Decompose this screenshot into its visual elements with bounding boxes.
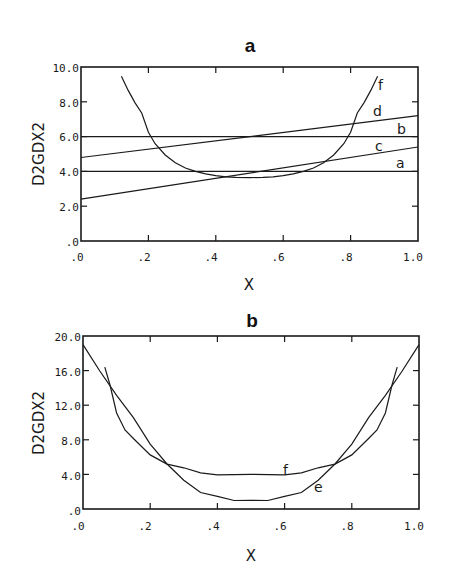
svg-text:.2: .2	[138, 520, 151, 533]
label-d: d	[373, 103, 382, 119]
panel-a-title: a	[245, 35, 256, 56]
svg-text:8.0: 8.0	[61, 435, 81, 448]
svg-text:20.0: 20.0	[55, 331, 82, 344]
svg-text:.2: .2	[137, 251, 150, 264]
panel-b-y-axis-label: D2GDX2	[30, 391, 48, 455]
svg-text:2.0: 2.0	[59, 201, 79, 214]
panel-a-x-tick-labels: .0 .2 .4 .6 .8 1.0	[70, 251, 423, 264]
panel-a-y-tick-labels: .0 2.0 4.0 6.0 8.0 10.0	[53, 62, 80, 249]
svg-text:16.0: 16.0	[55, 366, 82, 379]
svg-text:8.0: 8.0	[59, 97, 79, 110]
svg-text:.0: .0	[71, 520, 84, 533]
svg-text:.8: .8	[339, 251, 352, 264]
svg-text:10.0: 10.0	[53, 62, 80, 75]
svg-text:.6: .6	[273, 520, 286, 533]
panel-a-y-axis-label: D2GDX2	[30, 122, 48, 186]
svg-text:.4: .4	[206, 520, 220, 533]
svg-text:.8: .8	[340, 520, 353, 533]
panel-a-y-ticks	[81, 102, 418, 206]
panel-b-curve-labels: f e	[283, 462, 323, 495]
svg-text:12.0: 12.0	[55, 400, 82, 413]
label-a: a	[396, 155, 405, 171]
panel-a-x-ticks	[148, 67, 350, 241]
svg-text:.0: .0	[68, 505, 81, 518]
panel-b-x-tick-labels: .0 .2 .4 .6 .8 1.0	[71, 520, 424, 533]
curve-f	[121, 76, 377, 177]
label-f: f	[378, 77, 384, 93]
panel-b-frame	[83, 336, 419, 509]
panel-b-y-ticks	[83, 371, 419, 475]
svg-text:1.0: 1.0	[404, 520, 424, 533]
panel-a: a .0 .2 .4 .6 .8 1.0 .0 2.0 4.0	[30, 35, 423, 294]
panel-a-frame	[81, 67, 418, 241]
svg-text:4.0: 4.0	[59, 166, 79, 179]
panel-a-curve-labels: f d b c a	[373, 77, 406, 171]
panel-b-x-axis-label: X	[246, 547, 256, 565]
label-b: b	[397, 121, 406, 137]
svg-text:1.0: 1.0	[403, 251, 423, 264]
svg-text:.0: .0	[70, 251, 83, 264]
panel-a-x-axis-label: X	[244, 276, 254, 294]
label-e: e	[314, 479, 323, 495]
curve-e	[83, 345, 419, 501]
panel-b-title: b	[246, 310, 258, 331]
panel-b-y-tick-labels: .0 4.0 8.0 12.0 16.0 20.0	[55, 331, 82, 518]
svg-text:.0: .0	[66, 236, 79, 249]
curve-c	[81, 147, 418, 199]
svg-text:4.0: 4.0	[61, 470, 81, 483]
svg-text:.4: .4	[204, 251, 218, 264]
svg-text:6.0: 6.0	[59, 131, 79, 144]
label-c: c	[375, 138, 383, 154]
panel-b: b .0 .2 .4 .6 .8 1.0 .0 4.0 8.0 12.0	[30, 310, 424, 565]
label-f: f	[283, 462, 289, 478]
curve-f-b	[105, 367, 397, 475]
svg-text:.6: .6	[271, 251, 284, 264]
figure: a .0 .2 .4 .6 .8 1.0 .0 2.0 4.0	[0, 0, 450, 580]
